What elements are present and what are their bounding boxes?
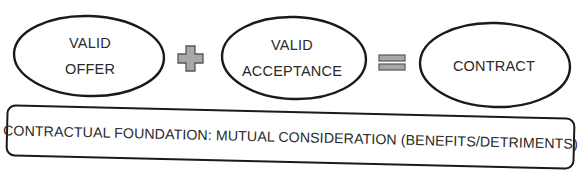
equals-icon <box>379 55 405 70</box>
offer-label-line-1: VALID <box>65 30 115 56</box>
plus-icon <box>178 46 203 71</box>
acceptance-label-line-1: VALID <box>242 32 342 58</box>
foundation-text: CONTRACTUAL FOUNDATION: MUTUAL CONSIDERA… <box>3 122 578 152</box>
acceptance-label-line-2: ACCEPTANCE <box>242 58 342 84</box>
offer-label-line-2: OFFER <box>65 56 115 82</box>
contract-label: CONTRACT <box>453 53 535 79</box>
offer-label: VALID OFFER <box>65 30 115 82</box>
acceptance-label: VALID ACCEPTANCE <box>242 32 342 84</box>
contract-label-line-1: CONTRACT <box>453 53 535 79</box>
